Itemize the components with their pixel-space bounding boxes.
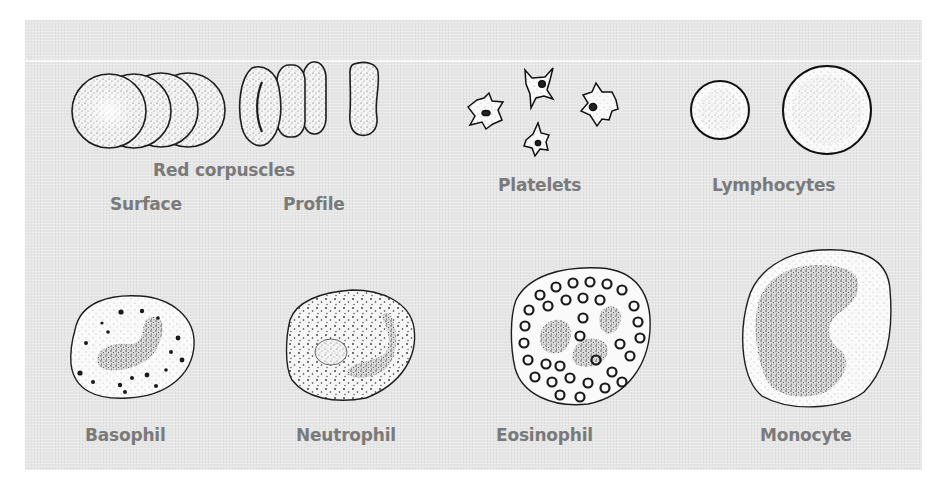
blood-cells-illustration [0,0,948,488]
platelets-drawing [468,68,618,156]
label-platelets: Platelets [498,175,581,195]
label-monocyte: Monocyte [760,425,852,445]
lymphocytes-drawing [691,66,871,154]
label-surface-view: Surface [110,194,182,214]
neutrophil-drawing [287,290,415,400]
eosinophil-drawing [511,268,650,405]
red-corpuscles-profile-drawing [240,62,379,146]
label-basophil: Basophil [85,425,166,445]
label-neutrophil: Neutrophil [296,425,396,445]
monocyte-drawing [743,250,891,407]
red-corpuscles-surface-drawing [72,73,225,148]
basophil-drawing [71,296,194,399]
label-eosinophil: Eosinophil [496,425,593,445]
label-red-corpuscles: Red corpuscles [153,160,295,180]
label-profile-view: Profile [283,194,345,214]
label-lymphocytes: Lymphocytes [712,175,835,195]
